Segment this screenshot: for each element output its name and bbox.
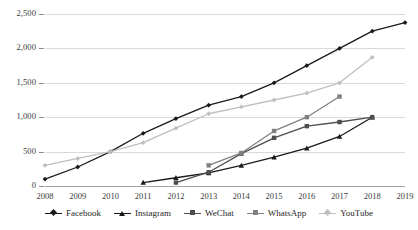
data-point bbox=[174, 180, 178, 184]
data-point bbox=[272, 136, 276, 140]
y-axis-tick-mark bbox=[39, 117, 44, 118]
legend-label: Facebook bbox=[66, 208, 101, 218]
x-axis-tick-label: 2019 bbox=[397, 191, 414, 201]
data-point bbox=[239, 151, 243, 155]
data-point bbox=[272, 129, 276, 133]
y-axis-tick-mark bbox=[39, 48, 44, 49]
data-point bbox=[239, 94, 244, 99]
x-axis-tick-label: 2013 bbox=[200, 191, 217, 201]
x-axis-tick-label: 2011 bbox=[135, 191, 152, 201]
legend-marker-icon bbox=[45, 209, 62, 218]
y-axis-tick-label: 1,500 bbox=[16, 77, 36, 87]
data-point bbox=[337, 94, 341, 98]
legend-item-whatsapp[interactable]: WhatsApp bbox=[247, 208, 307, 218]
legend-label: YouTube bbox=[340, 208, 373, 218]
series-wechat bbox=[174, 115, 375, 185]
legend-marker-icon bbox=[247, 209, 264, 218]
data-point bbox=[206, 111, 211, 116]
y-axis-tick-mark bbox=[39, 186, 44, 187]
data-point bbox=[43, 163, 48, 168]
x-axis-tick-label: 2008 bbox=[37, 191, 54, 201]
line-chart: 05001,0001,5002,0002,500 200820092010201… bbox=[0, 0, 418, 230]
data-point bbox=[305, 115, 309, 119]
data-point bbox=[337, 46, 342, 51]
chart-legend: FacebookInstagramWeChatWhatsAppYouTube bbox=[0, 208, 418, 218]
y-axis-tick-mark bbox=[39, 152, 44, 153]
y-axis-tick-label: 2,000 bbox=[16, 42, 36, 52]
series-instagram bbox=[140, 115, 374, 185]
series-facebook bbox=[43, 20, 408, 181]
y-axis-tick-label: 1,000 bbox=[16, 111, 36, 121]
data-point bbox=[304, 63, 309, 68]
x-axis-tick-label: 2016 bbox=[298, 191, 315, 201]
plot-area bbox=[45, 14, 405, 186]
x-axis-tick-label: 2014 bbox=[233, 191, 250, 201]
data-point bbox=[370, 115, 374, 119]
axis-baseline bbox=[45, 186, 405, 187]
legend-label: Instagram bbox=[135, 208, 171, 218]
y-axis-tick-label: 2,500 bbox=[16, 8, 36, 18]
data-point bbox=[174, 116, 179, 121]
data-point bbox=[206, 170, 210, 174]
series-group bbox=[45, 14, 405, 186]
x-axis-tick-label: 2017 bbox=[331, 191, 348, 201]
data-point bbox=[272, 80, 277, 85]
data-point bbox=[43, 177, 48, 182]
y-axis-tick-label: 500 bbox=[23, 146, 36, 156]
data-point bbox=[337, 134, 342, 139]
legend-marker-icon bbox=[184, 209, 201, 218]
data-point bbox=[206, 163, 210, 167]
x-axis-tick-label: 2010 bbox=[102, 191, 119, 201]
data-point bbox=[305, 124, 309, 128]
legend-marker-icon bbox=[114, 209, 131, 218]
x-axis-tick-label: 2015 bbox=[266, 191, 283, 201]
data-point bbox=[75, 165, 80, 170]
legend-item-facebook[interactable]: Facebook bbox=[45, 208, 101, 218]
legend-label: WeChat bbox=[205, 208, 234, 218]
series-line bbox=[176, 117, 372, 182]
data-point bbox=[337, 120, 341, 124]
x-axis-tick-label: 2018 bbox=[364, 191, 381, 201]
data-point bbox=[304, 91, 309, 96]
y-axis-tick-mark bbox=[39, 83, 44, 84]
data-point bbox=[370, 29, 375, 34]
series-line bbox=[45, 57, 372, 165]
x-axis-tick-label: 2012 bbox=[167, 191, 184, 201]
data-point bbox=[239, 104, 244, 109]
legend-item-wechat[interactable]: WeChat bbox=[184, 208, 234, 218]
legend-item-instagram[interactable]: Instagram bbox=[114, 208, 171, 218]
series-youtube bbox=[43, 55, 375, 168]
legend-item-youtube[interactable]: YouTube bbox=[319, 208, 373, 218]
legend-label: WhatsApp bbox=[268, 208, 307, 218]
data-point bbox=[174, 126, 179, 131]
y-axis-tick-mark bbox=[39, 14, 44, 15]
series-line bbox=[45, 23, 405, 180]
data-point bbox=[272, 98, 277, 103]
data-point bbox=[141, 140, 146, 145]
data-point bbox=[206, 103, 211, 108]
y-axis-tick-label: 0 bbox=[32, 180, 36, 190]
legend-marker-icon bbox=[319, 209, 336, 218]
data-point bbox=[75, 156, 80, 161]
x-axis-tick-label: 2009 bbox=[69, 191, 86, 201]
data-point bbox=[403, 20, 408, 25]
